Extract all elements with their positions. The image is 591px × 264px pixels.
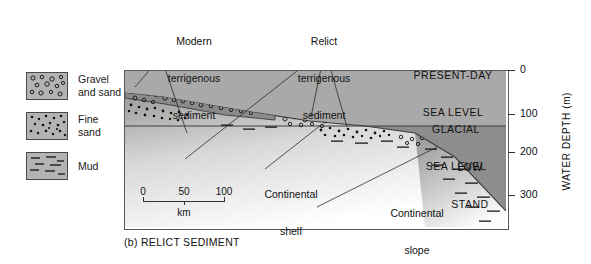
legend-label-line2: sand [78,126,101,139]
depth-tick-label-300: 300 [520,188,538,200]
depth-tick-300 [508,195,515,196]
scale-bar-cap-right [224,197,225,202]
legend-item-gravel-and-sand: Gravel and sand [26,72,121,100]
annotation-line1: Relict [278,35,370,47]
sea-level-line1: GLACIAL [410,123,502,135]
annotation-line2: terrigenous [278,72,370,84]
legend-label-mud: Mud [78,160,98,173]
legend-label-line2: and sand [78,86,121,99]
annotation-continental-shelf: Continental shelf [247,163,335,262]
figure-root: Gravel and sand [0,0,591,264]
scale-bar-label-0: 0 [140,186,146,197]
annotation-relict-terrigenous-sediment: Relict terrigenous sediment [278,10,370,146]
depth-tick-label-200: 200 [520,145,538,157]
annotation-line1: Modern [148,35,240,47]
legend-label-gravel-and-sand: Gravel and sand [78,73,121,98]
depth-tick-0 [508,70,515,71]
low-stand-line1: LOW [437,161,503,173]
scale-bar-label-100: 100 [216,186,233,197]
annotation-modern-terrigenous-sediment: Modern terrigenous sediment [148,10,240,146]
depth-tick-200 [508,152,515,153]
depth-tick-label-0: 0 [520,63,526,75]
annotation-line2: terrigenous [148,72,240,84]
scale-bar-cap-left [143,197,144,202]
legend: Gravel and sand [26,72,121,192]
label-low-stand: LOW STAND [437,136,503,235]
scale-bar-label-50: 50 [178,186,189,197]
legend-label-line1: Mud [78,160,98,173]
depth-tick-label-100: 100 [520,107,538,119]
low-stand-line2: STAND [437,198,503,210]
figure-caption: (b) RELICT SEDIMENT [124,236,240,248]
gravel-and-sand-swatch-icon [26,72,68,100]
scale-bar-unit: km [177,207,190,218]
fine-sand-swatch-icon [26,112,68,140]
legend-label-line1: Fine [78,113,101,126]
legend-label-line1: Gravel [78,73,121,86]
depth-axis-title: WATER DEPTH (m) [561,92,572,190]
legend-item-fine-sand: Fine sand [26,112,121,140]
annotation-line3: sediment [278,109,370,121]
annotation-line1: Continental [247,188,335,200]
annotation-line2: slope [373,244,461,256]
annotation-line2: shelf [247,225,335,237]
sea-level-line1: PRESENT-DAY [398,69,508,81]
mud-swatch-icon [26,152,68,180]
scale-bar-tick-mid [184,201,185,205]
legend-label-fine-sand: Fine sand [78,113,101,138]
legend-item-mud: Mud [26,152,121,180]
annotation-line3: sediment [148,109,240,121]
depth-tick-100 [508,114,515,115]
